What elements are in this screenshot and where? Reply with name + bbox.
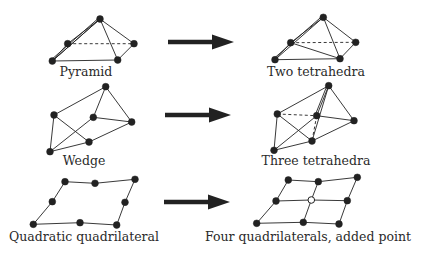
edge [95, 179, 135, 183]
edge [339, 201, 347, 224]
edge [106, 87, 132, 122]
node [351, 117, 358, 124]
edge [125, 179, 135, 202]
edge [277, 114, 312, 141]
four-quadrilaterals-label: Four quadrilaterals, added point [205, 231, 411, 244]
edge [303, 222, 339, 224]
node [309, 138, 316, 145]
node [51, 112, 58, 119]
node [49, 58, 56, 65]
quadratic-quadrilateral-figure [30, 176, 139, 229]
edge [50, 115, 54, 152]
two-tetrahedra-figure [272, 14, 360, 63]
pyramid-figure [49, 16, 138, 65]
edge [311, 200, 347, 201]
edge [274, 16, 322, 58]
three-tetrahedra-label: Three tetrahedra [262, 155, 371, 168]
node [77, 219, 84, 226]
edge [257, 222, 304, 223]
node [114, 57, 121, 64]
edge [317, 116, 354, 121]
node [102, 83, 109, 90]
node [344, 197, 351, 204]
node [337, 55, 344, 62]
node [92, 180, 99, 187]
wedge-figure [47, 83, 136, 155]
node [336, 221, 343, 228]
arrow-icon [168, 35, 234, 50]
edge [275, 17, 323, 59]
mesh-conversion-diagram [0, 0, 430, 255]
node [64, 40, 71, 47]
node [352, 39, 359, 46]
edge [51, 18, 99, 60]
edge [80, 223, 117, 225]
node [49, 198, 56, 205]
edge [52, 19, 100, 61]
edge [89, 122, 132, 142]
edge [347, 177, 357, 200]
edge [65, 182, 95, 184]
node [315, 178, 322, 185]
node [86, 139, 93, 146]
edge [291, 43, 340, 59]
arrow-icon [165, 108, 231, 123]
edge [33, 223, 80, 225]
quadratic-quadrilateral-label: Quadratic quadrilateral [9, 231, 159, 244]
node [313, 112, 320, 119]
edge [275, 59, 340, 60]
node [90, 114, 97, 121]
added-node [308, 197, 315, 204]
node [113, 222, 120, 229]
node [320, 14, 327, 21]
edge [33, 202, 52, 225]
node [272, 56, 279, 63]
wedge-label: Wedge [63, 155, 106, 168]
edge [52, 60, 117, 61]
edge [93, 117, 131, 122]
node [131, 40, 138, 47]
edge [288, 180, 318, 182]
edge [329, 86, 354, 121]
node [128, 119, 135, 126]
node [325, 82, 332, 89]
node [274, 111, 281, 118]
node [30, 221, 37, 228]
two-tetrahedra-label: Two tetrahedra [267, 66, 365, 79]
edge [276, 200, 311, 201]
node [97, 16, 104, 23]
edge [276, 180, 288, 201]
node [253, 220, 260, 227]
three-tetrahedra-figure [271, 82, 358, 153]
edge [312, 121, 354, 141]
edge [54, 87, 106, 115]
node [285, 177, 292, 184]
node [132, 176, 139, 183]
edge [318, 177, 357, 181]
node [354, 174, 361, 181]
edge [93, 87, 105, 118]
edge [257, 201, 276, 223]
four-quadrilaterals-figure [253, 174, 360, 228]
arrow-icon [164, 195, 230, 210]
pyramid-label: Pyramid [60, 66, 113, 79]
edge [54, 115, 89, 142]
node [300, 219, 307, 226]
node [47, 148, 54, 155]
node [122, 199, 129, 206]
node [287, 39, 294, 46]
edge [274, 114, 277, 150]
hidden-edge [277, 114, 316, 116]
node [62, 178, 69, 185]
node [273, 198, 280, 205]
